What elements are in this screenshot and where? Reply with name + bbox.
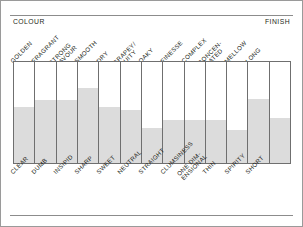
chart-column: [35, 62, 56, 163]
chart-plot-area: [13, 61, 291, 164]
chart-bar-fill: [248, 99, 268, 163]
chart-column: [227, 62, 248, 163]
axis-header-finish: FINISH: [265, 18, 290, 25]
chart-column: [78, 62, 99, 163]
chart-bar-fill: [78, 88, 98, 163]
chart-column: [206, 62, 227, 163]
axis-header-colour: COLOUR: [13, 18, 45, 25]
chart-bar-fill: [270, 118, 290, 162]
chart-column: [121, 62, 142, 163]
chart-column: [99, 62, 120, 163]
chart-bar-fill: [206, 120, 226, 162]
chart-column: [248, 62, 269, 163]
chart-column: [57, 62, 78, 163]
bottom-divider-rule: [10, 215, 293, 216]
chart-bar-fill: [57, 100, 77, 163]
chart-frame: COLOUR FINISH GOLDENFRAGRANTSTRONG FLAVO…: [0, 0, 303, 227]
top-divider-rule: [10, 15, 293, 16]
chart-column: [14, 62, 35, 163]
chart-column: [270, 62, 290, 163]
chart-bar-fill: [35, 100, 55, 163]
